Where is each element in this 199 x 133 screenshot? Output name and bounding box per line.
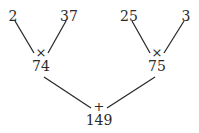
leaf-37: 37 xyxy=(60,9,78,23)
product-75: 75 xyxy=(148,59,166,73)
edge-3-75 xyxy=(164,21,184,53)
leaf-2: 2 xyxy=(9,9,18,23)
edge-75-149 xyxy=(107,77,155,108)
edge-2-74 xyxy=(15,21,34,53)
edge-74-149 xyxy=(44,77,91,108)
sum-149: 149 xyxy=(86,113,113,127)
leaf-25: 25 xyxy=(120,9,138,23)
product-74: 74 xyxy=(32,59,50,73)
edge-25-75 xyxy=(132,21,150,53)
edge-37-74 xyxy=(48,21,66,53)
leaf-3: 3 xyxy=(182,9,191,23)
